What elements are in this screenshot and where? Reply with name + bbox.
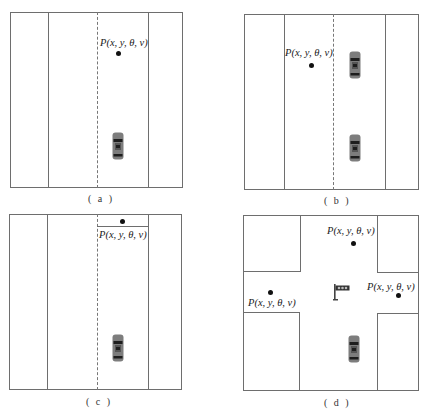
target-point-label-west: P(x, y, θ, v): [248, 297, 296, 308]
target-point-label: P(x, y, θ, v): [285, 47, 333, 58]
target-point-label-north: P(x, y, θ, v): [327, 225, 375, 236]
target-point-label-east: P(x, y, θ, v): [367, 281, 415, 292]
target-point-dot: [120, 219, 125, 224]
panel-caption: ( a ): [88, 193, 114, 204]
block-bottom-left: [243, 312, 300, 391]
panel-caption: ( c ): [86, 396, 112, 407]
traffic-light-icon: [333, 283, 351, 301]
target-point-dot-west: [268, 290, 273, 295]
panel-caption: ( b ): [324, 195, 351, 206]
right-road-edge: [148, 12, 149, 188]
target-point-dot-east: [396, 293, 401, 298]
right-road-edge: [148, 214, 149, 390]
left-road-edge: [284, 14, 285, 190]
left-road-edge: [47, 214, 48, 390]
target-point-label: P(x, y, θ, v): [100, 37, 148, 48]
block-top-left: [243, 215, 301, 272]
ego-car-icon: [112, 132, 124, 160]
left-road-edge: [48, 12, 49, 188]
road-outer-border: [244, 14, 419, 190]
stop-line: [97, 226, 148, 227]
right-road-edge: [385, 14, 386, 190]
ego-car-icon: [349, 134, 361, 162]
target-point-dot: [309, 63, 314, 68]
lead-car-icon: [349, 51, 361, 79]
center-dashed-line: [333, 14, 334, 190]
panel-caption: ( d ): [324, 397, 351, 408]
block-bottom-right: [377, 313, 419, 391]
target-point-label: P(x, y, θ, v): [99, 229, 147, 240]
block-top-right: [377, 215, 419, 273]
road-outer-border: [9, 214, 182, 390]
target-point-dot-north: [351, 241, 356, 246]
center-dashed-line: [97, 214, 98, 390]
target-point-dot: [116, 51, 121, 56]
ego-car-icon: [112, 334, 124, 362]
ego-car-icon: [348, 335, 360, 363]
center-dashed-line: [97, 12, 98, 188]
